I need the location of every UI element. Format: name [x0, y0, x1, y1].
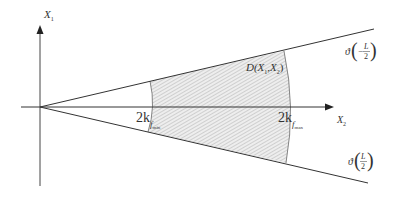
svg-text:): )	[370, 39, 377, 62]
arrow-right-icon	[325, 104, 334, 111]
x2-label: X2	[336, 114, 346, 127]
svg-text:(: (	[354, 149, 361, 172]
svg-text:2: 2	[361, 162, 365, 171]
svg-text:−: −	[358, 46, 363, 56]
x1-axis	[37, 25, 44, 186]
svg-text:2: 2	[364, 52, 368, 61]
svg-text:L: L	[363, 42, 369, 51]
sector-diagram: X1 X2 D(X1,X2) 2kfmin 2kfmax ϑ ( − L 2 )…	[0, 0, 393, 197]
svg-text:(: (	[351, 39, 358, 62]
x1-label: X1	[43, 8, 54, 22]
svg-text:): )	[367, 149, 374, 172]
lower-ray-label: ϑ ( L 2 )	[348, 149, 374, 172]
arrow-up-icon	[37, 25, 44, 34]
upper-ray-label: ϑ ( − L 2 )	[345, 39, 377, 62]
svg-text:L: L	[360, 152, 366, 161]
